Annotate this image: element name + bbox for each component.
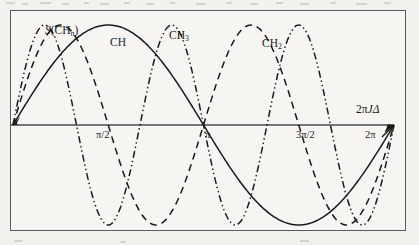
curve-label-ch2-text: CH (262, 37, 278, 49)
tick-label-pi: π (205, 130, 210, 141)
curve-label-ch3: CH3 (169, 30, 189, 43)
dept-intensity-plot (11, 11, 407, 232)
curve-label-ch-text: CH (110, 36, 126, 48)
tick-label-2pi: 2π (365, 130, 376, 141)
curve-label-ch3-subscript: 3 (185, 34, 189, 43)
curve-label-ch: CH (110, 37, 126, 49)
tick-label-3pi-over-2: 3π/2 (296, 130, 315, 141)
curve-label-ch3-text: CH (169, 29, 185, 41)
curve-label-ch2: CH2 (262, 38, 282, 51)
figure-frame: S(CHn) CH CH3 CH2 2πJΔ π/2 π 3π/2 2π (10, 10, 406, 231)
tick-label-pi-over-2: π/2 (96, 130, 109, 141)
intensity-close: ) (74, 24, 78, 36)
intensity-open: (CH (51, 24, 71, 36)
curve-label-intensity: S(CHn) (45, 25, 78, 38)
x-axis-label-prefix: 2π (356, 103, 368, 115)
curve-label-ch2-subscript: 2 (278, 42, 282, 51)
x-axis-label-delta: Δ (373, 103, 380, 115)
x-axis-label: 2πJΔ (356, 104, 379, 116)
